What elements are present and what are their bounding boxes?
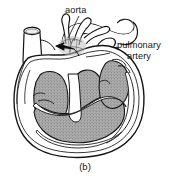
label-pulmonary-line1: pulmonary (111, 40, 167, 51)
heart-diagram-svg (0, 0, 170, 176)
label-pulmonary-artery: pulmonary artery (111, 40, 167, 61)
figure-caption: (b) (0, 161, 170, 172)
label-aorta: aorta (65, 5, 86, 16)
label-pulmonary-line2: artery (111, 51, 167, 62)
heart-anatomy-figure: aorta pulmonary artery (b) (0, 0, 170, 176)
chamber-right-atrium (99, 61, 129, 109)
